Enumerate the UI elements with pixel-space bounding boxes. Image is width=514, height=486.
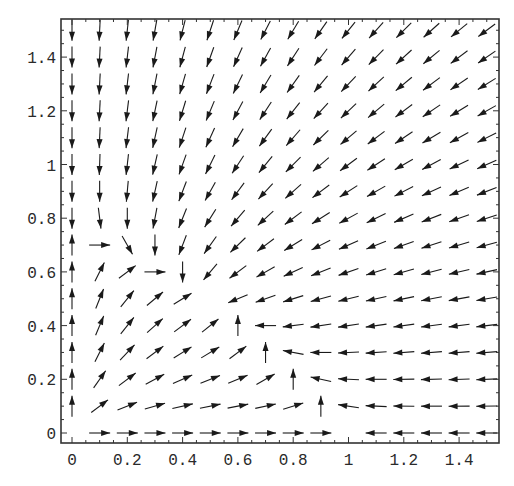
y-tick-label: 1.4: [27, 50, 56, 68]
vector-field-chart: 00.20.40.60.811.21.4 00.20.40.60.811.21.…: [0, 0, 514, 486]
x-tick-label: 0.2: [113, 452, 142, 470]
x-tick-label: 0.8: [279, 452, 308, 470]
y-tick-label: 1.2: [27, 104, 56, 122]
y-tick-label: 0.2: [27, 372, 56, 390]
y-tick-label: 1: [46, 158, 56, 176]
x-tick-label: 0.4: [168, 452, 197, 470]
y-tick-label: 0.6: [27, 265, 56, 283]
x-tick-label: 0.6: [223, 452, 252, 470]
y-tick-label: 0.8: [27, 211, 56, 229]
x-tick-label: 0: [67, 452, 77, 470]
x-tick-label: 1: [344, 452, 354, 470]
x-tick-label: 1.4: [445, 452, 474, 470]
y-tick-label: 0.4: [27, 319, 56, 337]
x-tick-label: 1.2: [389, 452, 418, 470]
y-tick-label: 0: [46, 426, 56, 444]
